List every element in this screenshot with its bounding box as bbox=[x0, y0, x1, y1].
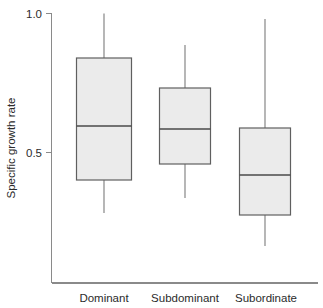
plot-canvas: 1.0 0.5 Specific growth rate Dominant Su bbox=[0, 0, 323, 308]
box-group-subordinate bbox=[240, 19, 291, 246]
y-tick-label-mid: 0.5 bbox=[26, 147, 42, 159]
box-group-subdominant bbox=[160, 45, 211, 198]
box-group-dominant bbox=[77, 14, 132, 214]
box-dominant bbox=[77, 58, 132, 180]
box-plot-figure: 1.0 0.5 Specific growth rate Dominant Su bbox=[0, 0, 323, 308]
x-category-label-dominant: Dominant bbox=[79, 292, 129, 304]
box-subordinate bbox=[240, 128, 291, 215]
y-axis-title: Specific growth rate bbox=[5, 98, 17, 199]
x-category-label-subdominant: Subdominant bbox=[151, 292, 220, 304]
box-subdominant bbox=[160, 88, 211, 164]
x-category-label-subordinate: Subordinate bbox=[235, 292, 297, 304]
y-tick-label-top: 1.0 bbox=[26, 8, 42, 20]
